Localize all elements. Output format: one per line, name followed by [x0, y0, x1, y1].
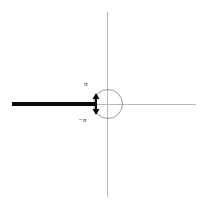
argument-jump-arrow-icon [92, 93, 100, 115]
branch-cut-ray [12, 102, 96, 106]
pi-label: π [84, 80, 88, 88]
negative-pi-label: −π [78, 116, 86, 124]
complex-plane-figure: π −π [0, 0, 209, 208]
